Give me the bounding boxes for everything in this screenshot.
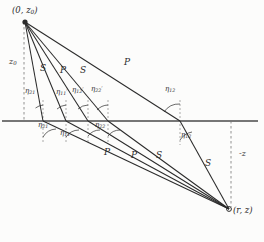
angle-label-eta-11-lower: η11 bbox=[60, 130, 70, 138]
ray-label-p-6: P bbox=[131, 151, 137, 160]
ray-path-figure: (0, z0) (r, z) z0 -z S P S P P P S S η21… bbox=[0, 0, 264, 242]
ray-label-p-5: P bbox=[104, 148, 110, 157]
source-depth-label: z0 bbox=[9, 58, 17, 67]
upper-ray-s-3b bbox=[25, 22, 108, 121]
angle-label-eta-21-lower: η21′ bbox=[38, 122, 50, 130]
angle-arc-upper-5 bbox=[164, 104, 180, 112]
angle-label-eta-12-lowerright: η12 bbox=[181, 132, 191, 140]
angle-arc-lower-3 bbox=[88, 130, 100, 136]
source-point-marker bbox=[22, 19, 27, 24]
receiver-point-label: (r, z) bbox=[233, 206, 253, 215]
angle-label-eta-12-right: η12 bbox=[165, 86, 175, 94]
angle-label-eta-22-upper: η22′ bbox=[91, 86, 103, 94]
receiver-depth-label: -z bbox=[239, 150, 246, 158]
ray-label-s-8: S bbox=[205, 159, 211, 168]
angle-label-eta-21-upper: η21 bbox=[25, 88, 35, 96]
angle-label-eta-12-upper: η12′ bbox=[72, 87, 84, 95]
ray-label-s-1: S bbox=[40, 64, 46, 73]
angle-label-eta-11-upper: η11′ bbox=[56, 89, 68, 97]
angle-arc-upper-2 bbox=[57, 105, 66, 109]
lower-ray-1 bbox=[43, 121, 229, 209]
ray-label-s-7: S bbox=[156, 151, 162, 160]
angle-arc-upper-1 bbox=[36, 105, 44, 108]
ray-label-p-4: P bbox=[124, 58, 130, 67]
angle-label-eta-22-lower: η22 bbox=[95, 122, 105, 130]
ray-label-p-2: P bbox=[60, 66, 66, 75]
source-point-label: (0, z0) bbox=[12, 6, 38, 16]
angle-arc-lower-1 bbox=[43, 129, 56, 137]
ray-label-s-3: S bbox=[80, 66, 86, 75]
